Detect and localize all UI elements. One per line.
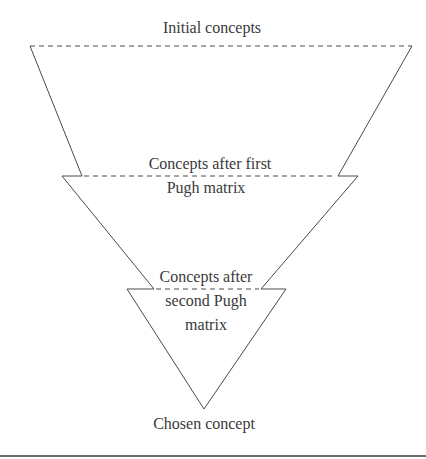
label-second-pugh-line2: second Pugh — [165, 290, 246, 311]
funnel-diagram — [0, 0, 426, 459]
stage2-left-edge — [62, 176, 154, 289]
stage1-right-edge — [338, 46, 412, 176]
label-second-pugh-line3: matrix — [185, 314, 227, 335]
label-first-pugh-line1: Concepts after first — [149, 153, 272, 174]
label-chosen-concept: Chosen concept — [153, 413, 255, 434]
stage2-right-edge — [261, 176, 358, 289]
label-second-pugh-line1: Concepts after — [160, 266, 253, 287]
label-initial-concepts: Initial concepts — [163, 17, 261, 38]
stage1-left-edge — [30, 46, 82, 176]
label-first-pugh-line2: Pugh matrix — [167, 177, 246, 198]
